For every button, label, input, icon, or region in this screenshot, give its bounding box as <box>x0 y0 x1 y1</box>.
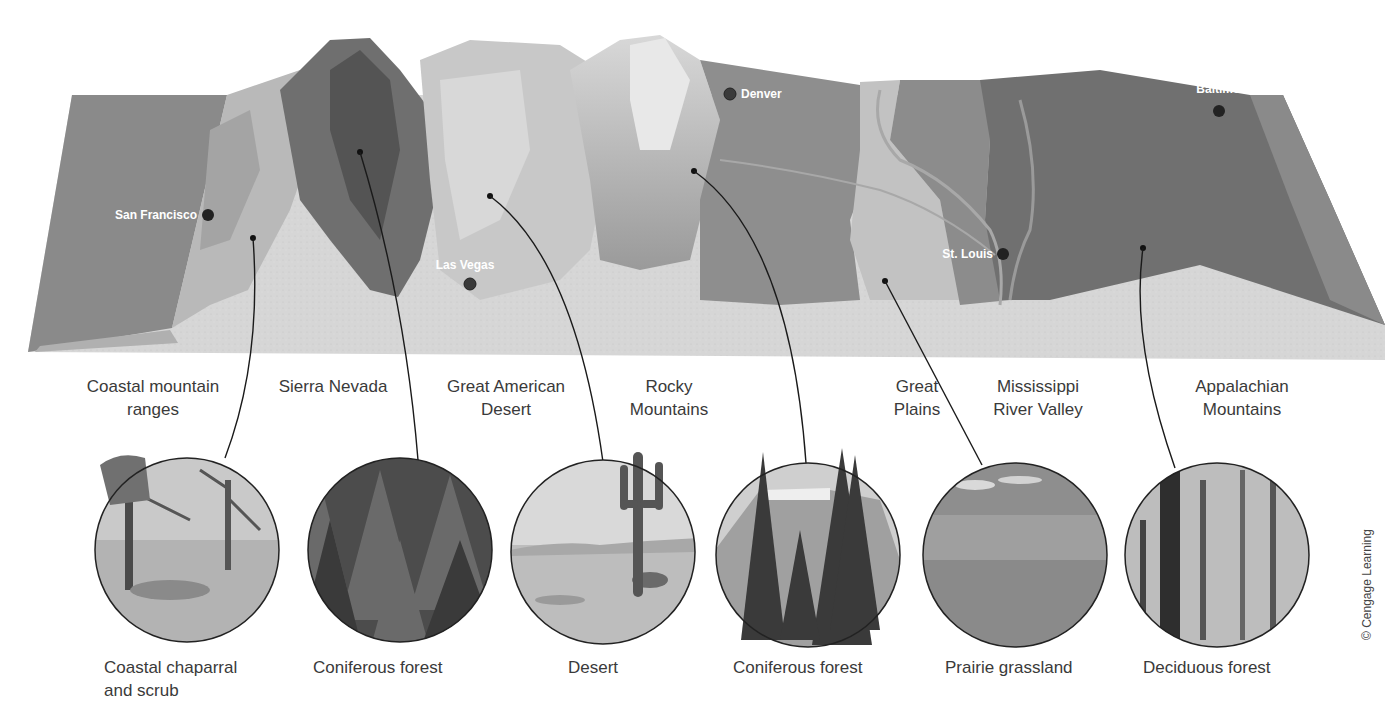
biome-label-line: Coniferous forest <box>733 656 862 679</box>
region-label-great-american-desert: Great American Desert <box>447 375 565 421</box>
biome-label-line: Coastal chaparral <box>104 656 237 679</box>
biome-label-line: and scrub <box>104 679 237 702</box>
region-label-line: Great <box>894 375 940 398</box>
svg-text:Denver: Denver <box>741 87 782 101</box>
region-label-appalachian-mountains: Appalachian Mountains <box>1195 375 1289 421</box>
region-label-line: Sierra Nevada <box>279 375 388 398</box>
copyright-credit: © Cengage Learning <box>1360 529 1374 640</box>
biome-label-line: Prairie grassland <box>945 656 1073 679</box>
region-label-line: Desert <box>447 398 565 421</box>
region-label-great-plains: Great Plains <box>894 375 940 421</box>
region-label-line: Rocky <box>630 375 708 398</box>
biome-photo-desert <box>500 452 710 655</box>
biome-label-coniferous-forest-sierra: Coniferous forest <box>313 656 442 679</box>
region-label-mississippi-river-valley: Mississippi River Valley <box>993 375 1082 421</box>
svg-text:San Francisco: San Francisco <box>115 208 197 222</box>
biome-photo-deciduous <box>1120 455 1320 655</box>
region-label-line: ranges <box>87 398 219 421</box>
region-label-line: Plains <box>894 398 940 421</box>
biome-label-prairie-grassland: Prairie grassland <box>945 656 1073 679</box>
svg-text:Baltimore: Baltimore <box>1196 82 1252 96</box>
region-label-line: Mountains <box>1195 398 1289 421</box>
biome-label-desert: Desert <box>568 656 618 679</box>
biome-photo-coniferous-rocky <box>710 448 910 655</box>
biome-photo-coniferous-sierra <box>290 455 500 655</box>
region-label-line: Appalachian <box>1195 375 1289 398</box>
region-label-line: Mississippi <box>993 375 1082 398</box>
biome-label-line: Desert <box>568 656 618 679</box>
biome-label-coastal-chaparral: Coastal chaparral and scrub <box>104 656 237 702</box>
city-denver: Denver <box>724 87 782 101</box>
svg-text:Las Vegas: Las Vegas <box>436 258 495 272</box>
biome-label-coniferous-forest-rocky: Coniferous forest <box>733 656 862 679</box>
biome-label-line: Deciduous forest <box>1143 656 1271 679</box>
region-label-sierra-nevada: Sierra Nevada <box>279 375 388 398</box>
biome-photo-coastal-chaparral <box>90 455 290 655</box>
region-label-coastal-mountain-ranges: Coastal mountain ranges <box>87 375 219 421</box>
biome-label-deciduous-forest: Deciduous forest <box>1143 656 1271 679</box>
biome-photo-prairie <box>915 455 1115 655</box>
region-label-rocky-mountains: Rocky Mountains <box>630 375 708 421</box>
terrain-block <box>28 35 1385 360</box>
region-label-line: Coastal mountain <box>87 375 219 398</box>
region-label-line: River Valley <box>993 398 1082 421</box>
region-label-line: Mountains <box>630 398 708 421</box>
biome-label-line: Coniferous forest <box>313 656 442 679</box>
biome-cross-section-diagram: San Francisco Las Vegas Denver St. Louis… <box>0 0 1392 715</box>
region-label-line: Great American <box>447 375 565 398</box>
svg-text:St. Louis: St. Louis <box>942 247 993 261</box>
